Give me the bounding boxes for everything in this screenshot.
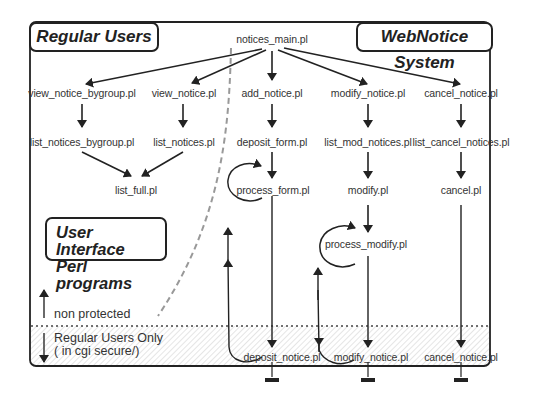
node-list-notices: list_notices.pl — [153, 136, 215, 148]
node-cancel: cancel.pl — [441, 184, 482, 196]
node-view-notice-bygroup: view_notice_bygroup.pl — [28, 87, 136, 99]
ui-perl-programs-box: User Interface Perl programs — [45, 217, 167, 261]
node-notices-main: notices_main.pl — [236, 33, 307, 45]
cancel-notice-terminator-bar — [454, 378, 468, 382]
node-modify-notice-secure: modify_notice.pl — [334, 351, 408, 363]
node-cancel-notice-secure: cancel_notice.pl — [424, 351, 498, 363]
deposit-notice-terminator-bar — [265, 378, 279, 382]
regular-users-title: Regular Users — [29, 22, 159, 52]
node-modify: modify.pl — [348, 184, 388, 196]
node-view-notice: view_notice.pl — [152, 87, 217, 99]
node-list-mod-notices: list_mod_notices.pl — [324, 136, 411, 148]
ui-perl-line1: User Interface — [56, 224, 165, 258]
legend-non-protected: non protected — [54, 308, 130, 321]
arrow-list-bygroup-to-list-full — [82, 152, 131, 176]
node-deposit-form: deposit_form.pl — [237, 136, 307, 148]
node-process-form: process_form.pl — [236, 184, 309, 196]
legend-cgi-secure: ( in cgi secure/) — [54, 345, 139, 358]
node-cancel-notice: cancel_notice.pl — [424, 87, 498, 99]
webnotice-system-title: WebNotice System — [356, 22, 493, 52]
arrow-list-notices-to-list-full — [142, 152, 183, 176]
node-modify-notice: modify_notice.pl — [331, 87, 405, 99]
node-deposit-notice: deposit_notice.pl — [243, 351, 320, 363]
ui-perl-line2: Perl programs — [56, 258, 165, 292]
node-list-full: list_full.pl — [115, 184, 157, 196]
node-process-modify: process_modify.pl — [325, 238, 407, 250]
modify-notice-terminator-bar — [361, 378, 375, 382]
node-list-notices-bygroup: list_notices_bygroup.pl — [30, 136, 135, 148]
node-add-notice: add_notice.pl — [241, 87, 302, 99]
arrow-main-to-view-bygroup — [86, 49, 262, 84]
node-list-cancel-notices: list_cancel_notices.pl — [412, 136, 509, 148]
